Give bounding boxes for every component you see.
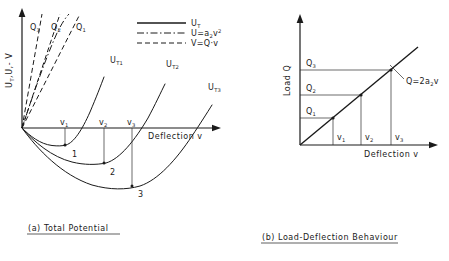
panel-b-y-axis-label: Load Q [283, 65, 292, 96]
curve-ut3 [22, 105, 212, 189]
panel-b-caption: (b) Load-Deflection Behaviour [262, 233, 398, 242]
panel-a-x-axis-label: Deflection v [148, 132, 203, 141]
panel-b-tick-v3: v3 [395, 133, 404, 143]
panel-a-tick-v1: v1 [60, 118, 69, 128]
panel-b-tick-q2: Q2 [306, 84, 316, 94]
panel-a-x-axis [22, 125, 221, 132]
panel-b-tick-q3: Q3 [306, 59, 316, 69]
figure-svg: UT,U,- V Deflection v Q3 Q2 Q1 [0, 0, 449, 261]
panel-b-tick-q1: Q1 [306, 107, 316, 117]
panel-a-minimum-label-2: 2 [110, 168, 115, 177]
legend-label-v: V=Q·v [191, 39, 218, 48]
panel-b-y-axis [297, 14, 304, 145]
legend-label-ut: UT [191, 19, 201, 29]
panel-b-line-equation: Q=2a2v [406, 77, 439, 87]
panel-b: Load Q Deflection v Q1 Q2 Q3 [261, 14, 439, 243]
panel-b-point-2 [359, 93, 362, 96]
panel-a-minimum-label-1: 1 [72, 150, 77, 159]
panel-b-x-axis [300, 142, 438, 149]
panel-b-tick-v2: v2 [365, 133, 374, 143]
legend-label-u: U=a2v2 [191, 28, 222, 39]
panel-a-legend: UT U=a2v2 V=Q·v [137, 19, 222, 48]
panel-a-caption: (a) Total Potential [28, 224, 108, 233]
panel-a-y-axis [19, 8, 26, 128]
panel-b-point-3 [389, 68, 392, 71]
curve-ut1 [22, 77, 104, 146]
panel-b-load-line [300, 47, 418, 145]
panel-a-label-q2: Q2 [51, 23, 61, 33]
panel-a-y-axis-label: UT,U,- V [5, 53, 15, 88]
panel-a-label-ut1: UT1 [110, 56, 123, 66]
panel-a-minimum-label-3: 3 [138, 190, 143, 199]
panel-a-minimum-3 [131, 185, 134, 188]
curve-ut2 [22, 84, 165, 164]
panel-b-tick-v1: v1 [337, 133, 346, 143]
panel-a-minimum-1 [64, 144, 67, 147]
panel-a: UT,U,- V Deflection v Q3 Q2 Q1 [5, 8, 222, 234]
panel-a-label-q1: Q1 [76, 23, 86, 33]
panel-a-minimum-2 [103, 162, 106, 165]
panel-a-tick-v3: v3 [127, 118, 136, 128]
panel-a-tick-v2: v2 [99, 118, 108, 128]
panel-a-label-ut2: UT2 [166, 60, 179, 70]
panel-a-label-q3: Q3 [30, 23, 40, 33]
panel-b-leader-line [390, 65, 404, 79]
figure-root: UT,U,- V Deflection v Q3 Q2 Q1 [0, 0, 449, 261]
panel-b-x-axis-label: Deflection v [364, 150, 419, 159]
panel-a-label-ut3: UT3 [208, 83, 221, 93]
panel-b-point-1 [331, 116, 334, 119]
